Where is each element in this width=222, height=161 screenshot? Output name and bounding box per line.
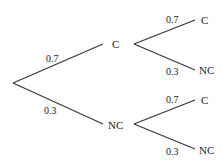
prob-nc-c: 0.7 (166, 94, 179, 105)
node-c: C (112, 38, 119, 50)
prob-nc-nc: 0.3 (166, 146, 179, 157)
branch-c-nc (134, 44, 195, 70)
node-nc: NC (108, 119, 123, 131)
leaf-nc-nc: NC (199, 144, 214, 156)
prob-c-c: 0.7 (166, 14, 179, 25)
leaf-c-c: C (201, 14, 208, 26)
branch-nc-nc (134, 124, 195, 149)
branch-c-c (134, 20, 195, 44)
prob-nc: 0.3 (44, 105, 57, 116)
probability-tree: 0.7 0.3 C NC 0.7 0.3 C NC 0.7 0.3 C NC (0, 0, 222, 161)
branch-nc (13, 83, 103, 124)
branch-nc-c (134, 100, 195, 124)
leaf-c-nc: NC (199, 64, 214, 76)
leaf-nc-c: C (201, 94, 208, 106)
prob-c: 0.7 (46, 53, 59, 64)
prob-c-nc: 0.3 (166, 66, 179, 77)
